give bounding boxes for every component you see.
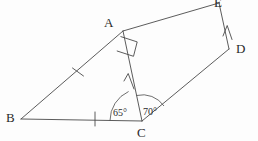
vertex-label-D: D xyxy=(236,42,245,55)
vertex-label-A: A xyxy=(104,16,113,29)
geometry-canvas xyxy=(0,0,258,141)
angle-label-BCA: 65° xyxy=(113,108,127,118)
segment-CB xyxy=(21,119,142,121)
segment-AE xyxy=(123,3,219,31)
segment-BA xyxy=(21,31,123,119)
vertex-label-B: B xyxy=(6,111,15,124)
vertex-label-E: E xyxy=(214,0,222,9)
angle-arc-ACD xyxy=(137,95,165,106)
right-angle-marker-icon xyxy=(117,37,137,57)
angle-label-ACD: 70° xyxy=(143,107,157,117)
tick-mark-BA-icon xyxy=(73,68,84,76)
vertex-label-C: C xyxy=(137,126,146,139)
geometry-figure: A B C D E 65° 70° xyxy=(0,0,258,141)
